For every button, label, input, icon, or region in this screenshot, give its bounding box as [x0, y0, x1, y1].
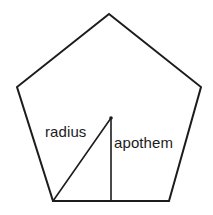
geometry-canvas	[0, 0, 213, 215]
pentagon-outline	[17, 14, 201, 201]
center-point-dot	[109, 116, 113, 120]
radius-label: radius	[45, 124, 86, 139]
apothem-label: apothem	[114, 135, 173, 150]
pentagon-diagram: radius apothem	[0, 0, 213, 215]
